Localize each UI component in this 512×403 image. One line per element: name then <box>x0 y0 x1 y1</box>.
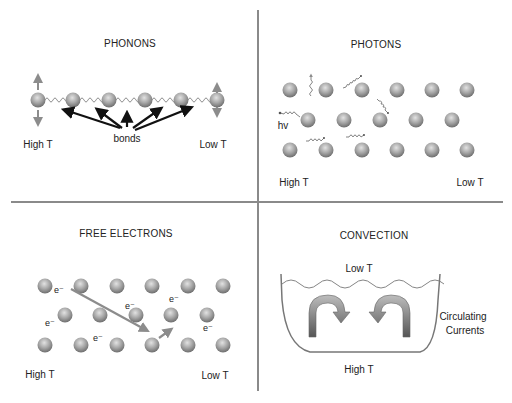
free-electrons-panel <box>38 279 231 353</box>
electrons-low-t-label: Low T <box>201 371 228 381</box>
photon-atoms <box>283 83 475 158</box>
electron-label: e⁻ <box>45 319 55 328</box>
photons-low-t-label: Low T <box>456 178 483 188</box>
circulating-label: Circulating <box>439 312 486 322</box>
free-electrons-title: FREE ELECTRONS <box>79 229 172 239</box>
container <box>281 274 440 352</box>
convection-low-t-label: Low T <box>345 264 372 274</box>
photon-waves <box>280 75 388 141</box>
photons-panel <box>279 75 475 158</box>
electron-label: e⁻ <box>203 324 213 333</box>
phonons-high-t-label: High T <box>23 140 52 150</box>
electrons-high-t-label: High T <box>25 370 54 380</box>
liquid-surface <box>282 280 444 288</box>
electron-label: e⁻ <box>125 302 135 311</box>
electron-lattice-atoms <box>38 279 231 353</box>
heat-transfer-diagram <box>0 0 512 403</box>
phonon-atoms <box>31 93 225 108</box>
phonons-low-t-label: Low T <box>199 140 226 150</box>
convection-high-t-label: High T <box>344 365 373 375</box>
phonons-panel <box>31 77 225 130</box>
electron-path-arrows <box>71 289 170 338</box>
bond-pointer-arrows <box>65 108 190 130</box>
electron-label: e⁻ <box>93 334 103 343</box>
bonds-label: bonds <box>113 134 140 144</box>
convection-title: CONVECTION <box>340 231 409 241</box>
convection-panel <box>281 274 444 352</box>
right-current-arrow <box>369 295 410 337</box>
phonons-title: PHONONS <box>104 39 156 49</box>
photon-hv-label: hv <box>278 121 289 131</box>
left-current-arrow <box>309 295 350 337</box>
photons-high-t-label: High T <box>279 178 308 188</box>
electron-label: e⁻ <box>169 295 179 304</box>
photons-title: PHOTONS <box>351 40 402 50</box>
electron-label: e⁻ <box>54 286 64 295</box>
currents-label: Currents <box>446 326 484 336</box>
